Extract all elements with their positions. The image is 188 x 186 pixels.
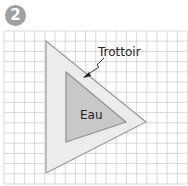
water-label: Eau	[80, 108, 103, 122]
pool-diagram: Trottoir Eau	[0, 0, 188, 186]
sidewalk-label: Trottoir	[97, 45, 141, 59]
arrow-icon	[83, 58, 104, 78]
